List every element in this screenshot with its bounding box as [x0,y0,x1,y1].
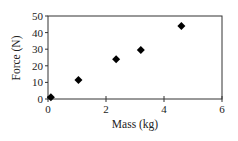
x-axis-title: Mass (kg) [112,118,158,131]
y-tick-label: 20 [32,60,44,72]
data-point-diamond [74,76,82,84]
x-tick-label: 6 [219,103,225,115]
y-axis: 01020304050 [32,10,48,105]
data-point-diamond [112,55,120,63]
y-tick-label: 40 [32,27,44,39]
data-points [47,22,186,101]
x-tick-label: 0 [45,103,51,115]
scatter-chart: 01020304050 0246 Mass (kg) Force (N) [0,0,238,141]
y-tick-label: 10 [32,76,44,88]
x-tick-label: 2 [103,103,109,115]
y-axis-title: Force (N) [10,35,23,80]
data-point-diamond [137,46,145,54]
x-tick-label: 4 [161,103,167,115]
data-point-diamond [177,22,185,30]
y-tick-label: 30 [32,43,44,55]
plot-frame [48,16,222,99]
y-tick-label: 50 [32,10,44,22]
y-tick-label: 0 [38,93,44,105]
